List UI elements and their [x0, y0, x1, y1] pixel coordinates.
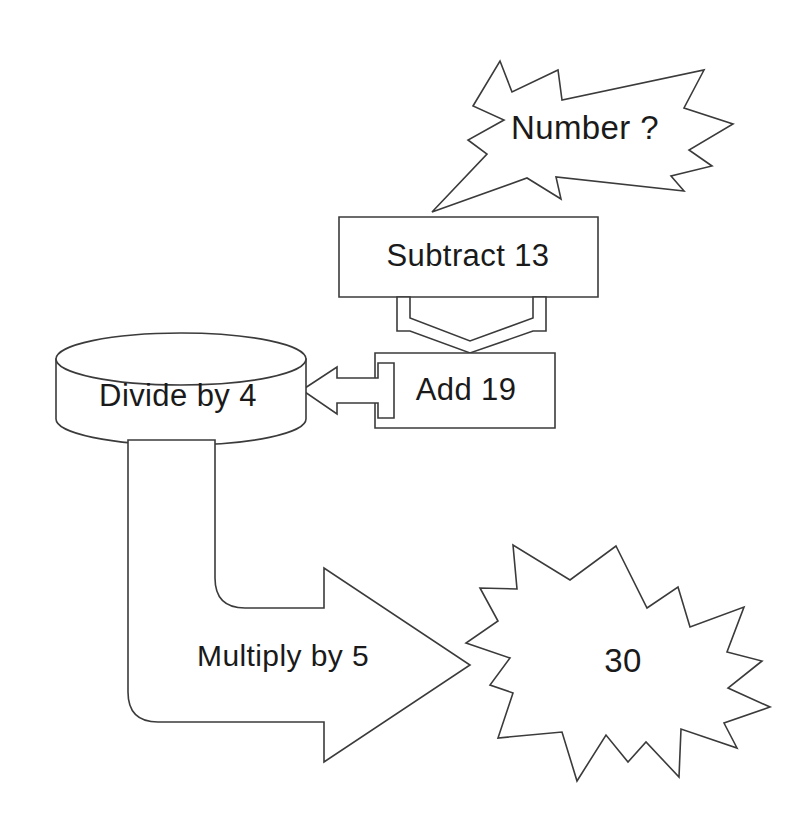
node-result-star[interactable]: 30 — [466, 545, 770, 781]
node-input-callout[interactable]: Number ? — [432, 61, 733, 212]
divide-cylinder-label: Divide by 4 — [99, 378, 257, 413]
subtract-box-label: Subtract 13 — [387, 238, 550, 273]
multiply-arrow-label: Multiply by 5 — [197, 639, 369, 672]
node-add-box[interactable]: Add 19 — [375, 353, 555, 428]
node-multiply-arrow[interactable]: Multiply by 5 — [128, 440, 470, 762]
flowchart-canvas: Number ? Subtract 13 Add 19 Divide by 4 — [0, 0, 786, 819]
node-divide-cylinder[interactable]: Divide by 4 — [56, 333, 306, 445]
input-callout-label: Number ? — [511, 109, 659, 146]
connector-subtract-to-add — [397, 297, 546, 353]
down-chevron-arrow-shape — [397, 297, 546, 353]
node-subtract-box[interactable]: Subtract 13 — [339, 217, 598, 297]
left-block-arrow-shape — [302, 363, 394, 418]
add-box-label: Add 19 — [416, 372, 517, 407]
connector-add-to-divide — [302, 363, 394, 418]
flowchart-svg: Number ? Subtract 13 Add 19 Divide by 4 — [0, 0, 786, 819]
cylinder-top-ellipse — [56, 333, 306, 385]
result-star-label: 30 — [604, 642, 642, 679]
bent-block-arrow-shape — [128, 440, 470, 762]
